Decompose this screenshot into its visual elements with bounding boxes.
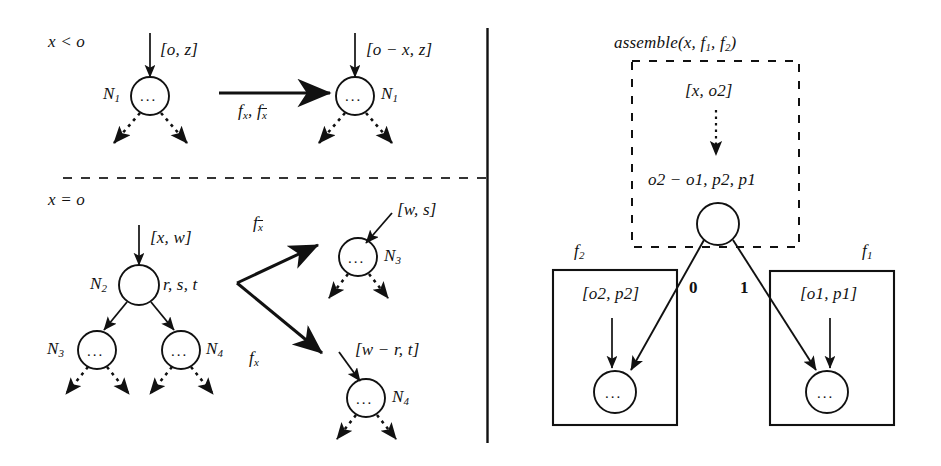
figure-canvas: x < o [o, z] N1 ... fx, fx [o − x, z] N1… xyxy=(0,0,941,466)
branch-up-f-sub: x xyxy=(258,221,263,233)
n3-child-name: N xyxy=(47,339,59,358)
branch-down-edge-label: fx xyxy=(249,348,259,368)
n2-child-edge-left xyxy=(104,302,127,330)
f2-label-sub: 2 xyxy=(579,249,585,261)
n4-result-sub: 4 xyxy=(404,395,410,407)
n3-result-name: N xyxy=(384,246,396,265)
n4-result-dotted-right xyxy=(377,415,396,439)
n4-result-dotted-left xyxy=(337,415,356,439)
n3-result-incoming-arrow xyxy=(366,213,392,243)
figure-vector-layer xyxy=(0,0,941,466)
target-child-dotted-right-top xyxy=(366,113,392,143)
n2-incoming-label: [x, w] xyxy=(150,228,192,248)
rule-top-target-incoming-label: [o − x, z] xyxy=(366,40,432,60)
assemble-edge-label-0: 0 xyxy=(689,278,698,298)
n2-node-circle xyxy=(119,265,159,305)
assemble-args-close: ) xyxy=(731,33,737,52)
f1-label-sub: 1 xyxy=(867,249,873,261)
target-node-name-top: N xyxy=(381,84,393,103)
assemble-edge-0 xyxy=(631,240,704,370)
assemble-box-title: assemble(x, f1, f2) xyxy=(614,33,736,53)
f2-node-glyph: ... xyxy=(605,385,622,402)
n4-child-dotted-right xyxy=(191,367,213,394)
source-child-dotted-left-top xyxy=(114,113,140,143)
n3-child-dotted-right xyxy=(107,367,129,394)
n2-node-label: N2 xyxy=(90,274,107,294)
branch-up-edge-label: fx xyxy=(253,213,263,233)
assemble-edge-1 xyxy=(733,240,816,370)
n3-child-sub: 3 xyxy=(59,347,65,359)
n4-result-glyph: ... xyxy=(356,391,373,408)
assemble-incoming-label: [x, o2] xyxy=(685,81,733,101)
assemble-root-circle xyxy=(697,203,739,245)
transform-arrow-branch-down xyxy=(237,283,322,353)
n4-result-incoming-label: [w − r, t] xyxy=(355,340,420,360)
target-child-dotted-left-top xyxy=(319,113,345,143)
target-node-glyph-top: ... xyxy=(345,88,362,105)
transform-arrow-branch-up xyxy=(237,245,318,283)
assemble-args-mid: , f xyxy=(711,33,725,52)
n4-child-name: N xyxy=(206,339,218,358)
assemble-fn-name: assemble xyxy=(614,33,678,52)
assemble-node-attrs: o2 − o1, p2, p1 xyxy=(648,170,756,190)
n4-result-node-label: N4 xyxy=(392,387,409,407)
source-node-sub-top: 1 xyxy=(115,92,121,104)
assemble-args-open: (x, f xyxy=(678,33,705,52)
f2-box-label: f2 xyxy=(574,241,585,261)
n4-result-name: N xyxy=(392,387,404,406)
n3-result-incoming-label: [w, s] xyxy=(397,200,437,220)
assemble-edge-label-1: 1 xyxy=(740,278,749,298)
n3-result-glyph: ... xyxy=(348,250,365,267)
n4-child-dotted-left xyxy=(150,367,172,394)
source-node-glyph-top: ... xyxy=(140,88,157,105)
n2-side-label: r, s, t xyxy=(163,275,197,295)
rule-top-condition: x < o xyxy=(48,32,85,52)
branch-down-f-sub: x xyxy=(254,356,259,368)
f2-incoming-label: [o2, p2] xyxy=(582,284,639,304)
n2-name: N xyxy=(90,274,102,293)
source-child-dotted-right-top xyxy=(161,113,187,143)
f1-node-glyph: ... xyxy=(817,385,834,402)
n3-result-dotted-right xyxy=(369,274,388,298)
arrow-label-fxbar-sub: x xyxy=(262,109,267,121)
n2-sub: 2 xyxy=(102,282,108,294)
rule-top-target-node-label: N1 xyxy=(381,84,398,104)
source-node-name-top: N xyxy=(103,84,115,103)
n2-child-edge-right xyxy=(151,302,174,330)
f1-box-label: f1 xyxy=(862,241,873,261)
n4-child-glyph: ... xyxy=(171,343,188,360)
n3-result-node-label: N3 xyxy=(384,246,401,266)
n3-result-sub: 3 xyxy=(396,254,402,266)
n3-result-dotted-left xyxy=(329,274,348,298)
target-node-sub-top: 1 xyxy=(393,92,399,104)
n3-child-glyph: ... xyxy=(87,343,104,360)
n4-child-sub: 4 xyxy=(218,347,224,359)
f1-incoming-label: [o1, p1] xyxy=(800,284,857,304)
transform-arrow-label-top: fx, fx xyxy=(238,101,267,121)
n4-child-label: N4 xyxy=(206,339,223,359)
n3-child-dotted-left xyxy=(66,367,88,394)
n3-child-label: N3 xyxy=(47,339,64,359)
rule-top-source-incoming-label: [o, z] xyxy=(160,40,198,60)
rule-bottom-condition: x = o xyxy=(48,190,85,210)
rule-top-source-node-label: N1 xyxy=(103,84,120,104)
